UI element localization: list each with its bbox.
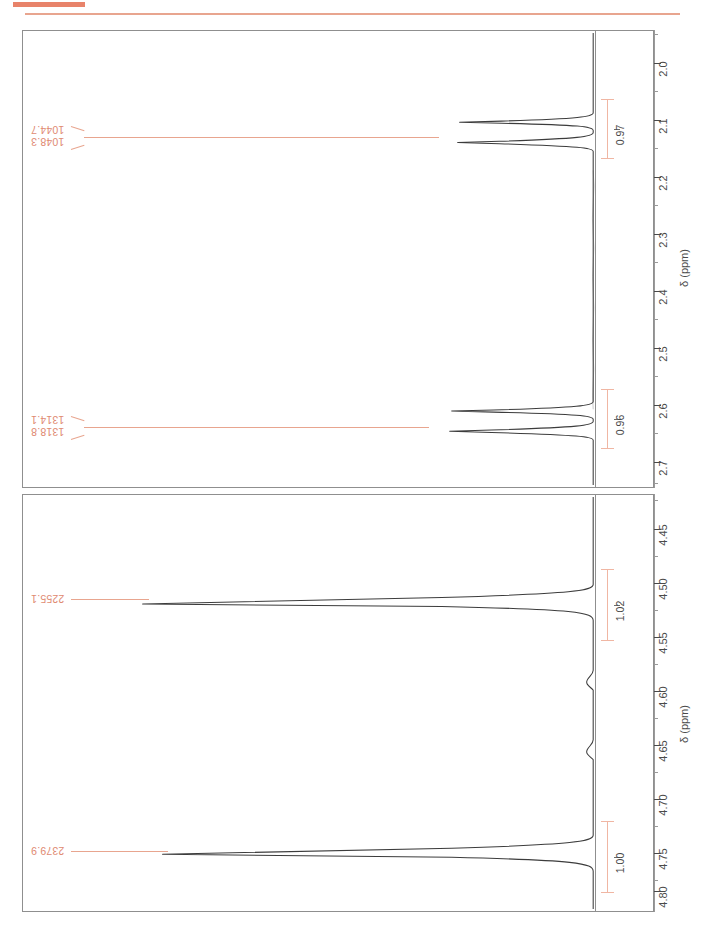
axis-tick-label: 4.70 xyxy=(657,794,669,815)
axis-tick-label: 2.6 xyxy=(657,403,669,418)
integral-value: 0.96 xyxy=(614,415,626,435)
axis-tick-label: 4.45 xyxy=(657,524,669,545)
header-rule xyxy=(25,13,680,15)
axis-tick-label: 4.60 xyxy=(657,686,669,707)
peak-frequency-label: 1044.7 xyxy=(31,124,64,136)
axis-tick-label: 2.5 xyxy=(657,346,669,361)
peak-connector xyxy=(84,427,429,428)
axis-tick-label: 4.65 xyxy=(657,740,669,761)
peak-frequency-label: 1314.1 xyxy=(31,414,64,426)
axis-tick-label: 2.2 xyxy=(657,175,669,190)
axis-tick-label: 2.1 xyxy=(657,118,669,133)
integral-value: 0.97 xyxy=(614,125,626,145)
axis-title: δ (ppm) xyxy=(678,705,690,743)
peak-frequency-label: 1318.8 xyxy=(31,426,64,438)
peak-frequency-label: 2379.9 xyxy=(31,845,64,857)
spectrum-panel-lower: 2255.1 2379.9 1.02 1.00 xyxy=(22,494,654,912)
axis-tick-label: 4.80 xyxy=(657,886,669,907)
peak-connector xyxy=(71,599,149,600)
axis-tick-label: 2.7 xyxy=(657,460,669,475)
ppm-axis-lower: 4.45 4.50 4.55 4.60 4.65 4.70 4.75 4.80 … xyxy=(654,494,702,912)
axis-line xyxy=(654,30,655,488)
nmr-trace-lower xyxy=(23,495,653,911)
integral-value: 1.00 xyxy=(614,853,626,873)
ppm-axis-upper: 2.0 2.1 2.2 2.3 2.4 2.5 2.6 2.7 δ (ppm) xyxy=(654,30,702,488)
nmr-trace-upper xyxy=(23,31,653,487)
peak-frequency-label: 2255.1 xyxy=(31,593,64,605)
axis-tick-label: 2.0 xyxy=(657,61,669,76)
peak-connector xyxy=(71,851,168,852)
axis-tick-label: 4.50 xyxy=(657,578,669,599)
axis-tick-label: 2.3 xyxy=(657,232,669,247)
spectrum-panel-upper: 1044.7 1048.3 1314.1 1318.8 0.97 0.96 xyxy=(22,30,654,488)
axis-title: δ (ppm) xyxy=(678,249,690,287)
integral-value: 1.02 xyxy=(614,601,626,621)
header-accent-block xyxy=(13,2,85,7)
axis-tick-label: 4.75 xyxy=(657,848,669,869)
peak-connector xyxy=(84,137,439,138)
axis-tick-label: 4.55 xyxy=(657,632,669,653)
peak-frequency-label: 1048.3 xyxy=(31,136,64,148)
axis-tick-label: 2.4 xyxy=(657,289,669,304)
